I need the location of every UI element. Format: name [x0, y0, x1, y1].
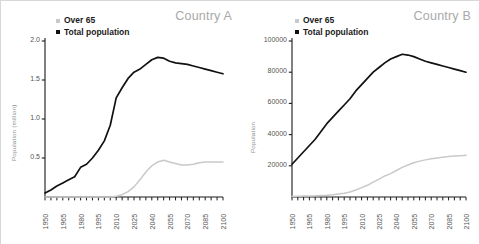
x-axis-tick-label: 2040 — [393, 204, 400, 230]
y-axis-tick-label: 60000 — [268, 98, 287, 105]
x-axis-tick-label: 2100 — [463, 204, 470, 230]
x-axis-tick-label: 1980 — [323, 204, 330, 230]
figure-root: Country A Over 65 Total population Popul… — [0, 0, 479, 244]
y-axis-tick-label: 100000 — [264, 36, 287, 43]
x-axis-tick-label: 1980 — [77, 204, 84, 230]
chart-panel-country-a: Country A Over 65 Total population Popul… — [1, 1, 240, 244]
y-axis-tick-label: 20000 — [268, 161, 287, 168]
x-axis-tick-label: 2070 — [428, 204, 435, 230]
y-axis-tick-label: 0.5 — [30, 153, 40, 160]
x-axis-tick-label: 1950 — [289, 204, 296, 230]
x-axis-tick-label: 2010 — [113, 204, 120, 230]
y-axis-tick-label: 2.0 — [30, 36, 40, 43]
x-axis-tick-label: 1965 — [59, 204, 66, 230]
x-axis-tick-label: 1995 — [95, 204, 102, 230]
x-axis-tick-label: 2085 — [202, 204, 209, 230]
x-axis-tick-label: 2055 — [410, 204, 417, 230]
x-axis-tick-label: 1950 — [42, 204, 49, 230]
x-axis-tick-label: 2100 — [220, 204, 227, 230]
x-axis-tick-label: 2040 — [148, 204, 155, 230]
x-axis-tick-label: 2010 — [358, 204, 365, 230]
y-axis-label-country-b: Population — [249, 122, 256, 153]
x-axis-tick-label: 2055 — [166, 204, 173, 230]
x-axis-tick-label: 1995 — [341, 204, 348, 230]
y-axis-tick-label: 80000 — [268, 67, 287, 74]
y-axis-tick-label: 1.0 — [30, 114, 40, 121]
chart-panel-country-b: Country B Over 65 Total population 20000… — [240, 1, 479, 244]
x-axis-tick-label: 2085 — [445, 204, 452, 230]
x-axis-tick-label: 2025 — [376, 204, 383, 230]
x-axis-tick-label: 1965 — [306, 204, 313, 230]
y-axis-tick-label: 1.5 — [30, 75, 40, 82]
x-axis-tick-label: 2025 — [131, 204, 138, 230]
x-axis-tick-label: 2070 — [184, 204, 191, 230]
y-axis-tick-label: 40000 — [268, 130, 287, 137]
